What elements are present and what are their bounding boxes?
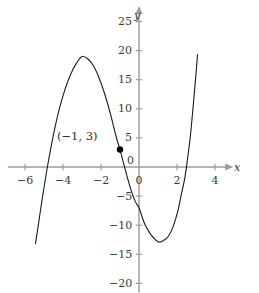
y-tick-label: 20 (118, 45, 132, 56)
y-axis-label: y (134, 10, 140, 21)
x-axis-label: x (234, 162, 240, 173)
marked-point-dot (117, 146, 123, 152)
x-tick-label: 0 (136, 175, 143, 186)
y-tick-label: 5 (125, 132, 132, 143)
y-tick-label: 10 (118, 103, 132, 114)
x-axis-arrow-icon (225, 163, 233, 170)
y-tick-label: 25 (118, 16, 132, 27)
x-tick-label: 2 (174, 175, 181, 186)
x-tick-label: −4 (55, 175, 71, 186)
point-annotation-label: (−1, 3) (57, 131, 98, 143)
x-tick-label: 4 (212, 175, 219, 186)
x-tick-label: −6 (17, 175, 33, 186)
cubic-function-graph: −6−4−20242520151050−5−10−15−20 x y (−1, … (0, 0, 259, 293)
x-tick-label: −2 (93, 175, 109, 186)
y-tick-label: −5 (116, 191, 132, 202)
y-tick-label: 0 (127, 155, 134, 166)
curve-path (35, 55, 197, 244)
y-tick-label: −20 (109, 278, 132, 289)
y-tick-label: −10 (109, 220, 132, 231)
y-tick-label: −15 (109, 249, 132, 260)
y-tick-label: 15 (118, 74, 132, 85)
